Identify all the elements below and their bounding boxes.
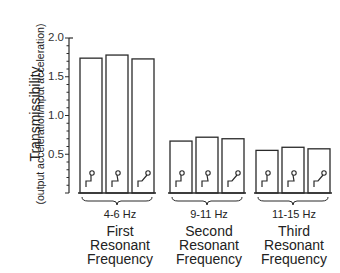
bar-slumped — [196, 137, 218, 193]
group-label-first: 4-6 Hz First Resonant Frequency — [72, 206, 168, 266]
freq-label: 9-11 Hz — [161, 206, 257, 222]
figure-head-icon — [116, 171, 120, 175]
figure-head-icon — [236, 171, 240, 175]
bar-upright — [170, 141, 192, 193]
group-name-line: Frequency — [176, 251, 242, 267]
group-brace — [172, 197, 242, 205]
group-label-third: 11-15 Hz Third Resonant Frequency — [246, 206, 340, 266]
group-name-line: Frequency — [261, 251, 327, 267]
freq-label: 11-15 Hz — [246, 206, 340, 222]
figure-head-icon — [322, 171, 326, 175]
group-brace — [82, 197, 152, 205]
bar-reclined — [308, 149, 330, 193]
freq-label: 4-6 Hz — [72, 206, 168, 222]
figure-head-icon — [266, 171, 270, 175]
figure-head-icon — [292, 171, 296, 175]
bar-slumped — [282, 147, 304, 193]
bar-reclined — [222, 139, 244, 193]
figure-head-icon — [206, 171, 210, 175]
group-brace — [258, 197, 328, 205]
figure-head-icon — [180, 171, 184, 175]
group-name-line: Frequency — [87, 251, 153, 267]
figure-head-icon — [90, 171, 94, 175]
group-label-second: 9-11 Hz Second Resonant Frequency — [161, 206, 257, 266]
figure-head-icon — [146, 171, 150, 175]
